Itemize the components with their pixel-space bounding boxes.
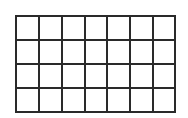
grid-diagram [0,0,188,118]
